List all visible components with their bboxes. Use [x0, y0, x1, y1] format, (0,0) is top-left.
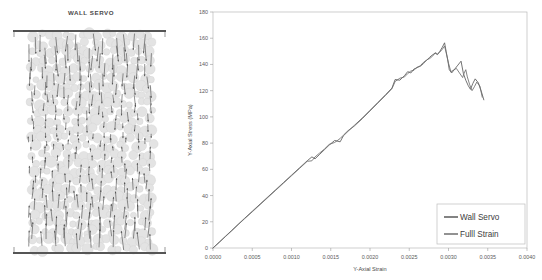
y-tick-label: 120 — [199, 88, 208, 94]
x-tick-label: 0.0040 — [519, 254, 536, 260]
legend-label-1: Wall Servo — [460, 213, 500, 222]
y-tick-label: 60 — [202, 166, 208, 172]
x-tick-label: 0.0000 — [205, 254, 222, 260]
y-tick-label: 40 — [202, 193, 208, 199]
y-axis-title: Y-Axial Stress (MPa) — [187, 104, 193, 156]
x-tick-label: 0.0020 — [362, 254, 379, 260]
y-axis: 020406080100120140160180 — [199, 9, 213, 251]
y-tick-label: 80 — [202, 140, 208, 146]
x-tick-label: 0.0030 — [440, 254, 457, 260]
legend-label-2: Fulll Strain — [460, 230, 499, 239]
chart-legend[interactable]: Wall ServoFulll Strain — [437, 204, 525, 244]
y-tick-label: 180 — [199, 9, 208, 15]
x-tick-label: 0.0005 — [244, 254, 261, 260]
y-tick-label: 0 — [205, 245, 208, 251]
x-tick-label: 0.0010 — [283, 254, 300, 260]
stress-strain-chart-panel: 0204060801001201401601800.00000.00050.00… — [182, 0, 542, 280]
x-tick-label: 0.0025 — [401, 254, 418, 260]
x-axis-title: Y-Axial Strain — [353, 266, 386, 272]
dem-assembly-svg — [0, 0, 182, 280]
y-tick-label: 20 — [202, 219, 208, 225]
x-axis: 0.00000.00050.00100.00150.00200.00250.00… — [205, 248, 536, 260]
x-tick-label: 0.0035 — [480, 254, 497, 260]
y-tick-label: 160 — [199, 35, 208, 41]
y-tick-label: 100 — [199, 114, 208, 120]
y-tick-label: 140 — [199, 61, 208, 67]
x-tick-label: 0.0015 — [323, 254, 340, 260]
figure-root: WALL SERVO 0204060801001201401601800.000… — [0, 0, 542, 280]
stress-strain-chart-svg: 0204060801001201401601800.00000.00050.00… — [182, 0, 542, 280]
dem-panel: WALL SERVO — [0, 0, 182, 280]
